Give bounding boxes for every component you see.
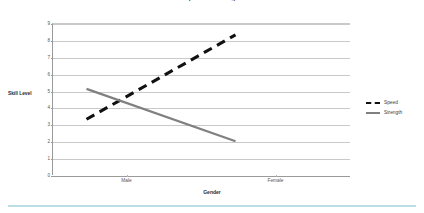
gridline bbox=[53, 75, 350, 76]
gridline bbox=[53, 159, 350, 160]
x-tick-label-male: Male bbox=[121, 178, 131, 183]
y-tick-label: 8 bbox=[40, 39, 50, 44]
x-tick-mark bbox=[276, 175, 277, 177]
legend-label-speed: Speed bbox=[384, 101, 398, 106]
y-tick-mark bbox=[51, 159, 54, 160]
y-tick-mark bbox=[51, 92, 54, 93]
x-tick-mark bbox=[127, 175, 128, 177]
plot-area: 9876543210 bbox=[52, 23, 350, 175]
y-tick-mark bbox=[51, 142, 54, 143]
y-tick-mark bbox=[51, 24, 54, 25]
legend-item-strength[interactable]: Strength bbox=[366, 108, 402, 118]
x-tick-label-female: Female bbox=[268, 178, 284, 183]
y-tick-label: 6 bbox=[40, 73, 50, 78]
gridline bbox=[53, 92, 350, 93]
y-tick-label: 9 bbox=[40, 22, 50, 27]
chart-canvas: Gender Speed & Strength Profile 98765432… bbox=[0, 0, 424, 213]
gridline bbox=[53, 108, 350, 109]
y-tick-label: 5 bbox=[40, 90, 50, 95]
gridline bbox=[53, 176, 350, 177]
legend-item-speed[interactable]: Speed bbox=[366, 98, 402, 108]
chart-legend: Speed Strength bbox=[366, 98, 402, 118]
y-tick-mark bbox=[51, 125, 54, 126]
legend-swatch-strength-icon bbox=[366, 112, 380, 114]
x-axis-title: Gender bbox=[0, 189, 424, 195]
y-tick-label: 2 bbox=[40, 140, 50, 145]
gridline bbox=[53, 24, 350, 25]
gridline bbox=[53, 58, 350, 59]
gridline bbox=[53, 142, 350, 143]
y-tick-label: 1 bbox=[40, 157, 50, 162]
y-tick-mark bbox=[51, 75, 54, 76]
chart-title: Gender Speed & Strength Profile bbox=[0, 0, 424, 1]
y-tick-mark bbox=[51, 108, 54, 109]
y-tick-label: 0 bbox=[40, 174, 50, 179]
gridline bbox=[53, 125, 350, 126]
legend-swatch-speed-icon bbox=[366, 102, 380, 104]
y-tick-mark bbox=[51, 41, 54, 42]
y-tick-label: 7 bbox=[40, 56, 50, 61]
y-tick-label: 4 bbox=[40, 106, 50, 111]
y-axis-title: Skill Level bbox=[8, 91, 31, 96]
y-tick-label: 3 bbox=[40, 123, 50, 128]
legend-label-strength: Strength bbox=[384, 111, 402, 116]
gridline bbox=[53, 41, 350, 42]
y-tick-mark bbox=[51, 176, 54, 177]
bottom-accent-bar bbox=[8, 205, 416, 207]
y-tick-mark bbox=[51, 58, 54, 59]
